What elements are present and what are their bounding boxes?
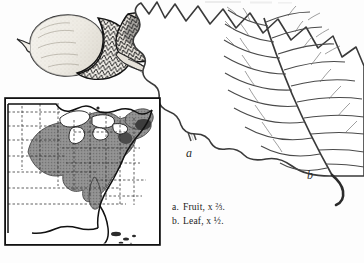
caption-text-a: Fruit, x ⅔. [183,202,225,212]
caption-key-b: b. [172,214,183,228]
caption-text-b: Leaf, x ½. [183,216,224,226]
caption-line-leaf: b.Leaf, x ½. [172,214,225,228]
figure-label-b: b [307,168,313,183]
caption-line-fruit: a.Fruit, x ⅔. [172,200,225,214]
figure-label-a: a [186,146,192,161]
caption-key-a: a. [172,200,183,214]
range-map-frame [5,98,160,245]
figure-leaf [133,2,364,205]
plate-caption: a.Fruit, x ⅔. b.Leaf, x ½. [172,200,225,228]
scan-artifact [205,1,292,4]
